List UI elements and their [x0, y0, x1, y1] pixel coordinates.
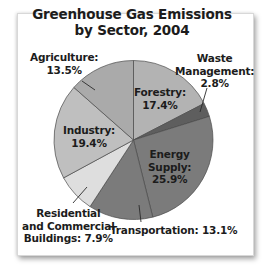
energy-label-line-2: Supply:	[148, 161, 191, 174]
forestry-label: Forestry: 17.4%	[134, 86, 186, 111]
transportation-label-text: Transportation: 13.1%	[110, 224, 237, 237]
energy-label-value: 25.9%	[148, 173, 191, 186]
waste-label-line-2: Management:	[175, 65, 254, 78]
energy-label: Energy Supply: 25.9%	[148, 148, 191, 186]
agriculture-label: Agriculture: 13.5%	[30, 51, 98, 76]
agriculture-label-name: Agriculture:	[30, 51, 98, 64]
transportation-label: Transportation: 13.1%	[110, 224, 237, 237]
energy-label-line-1: Energy	[148, 148, 191, 161]
waste-label: Waste Management: 2.8%	[175, 52, 254, 90]
residential-label-line-3: Buildings: 7.9%	[22, 232, 115, 245]
residential-label-line-1: Residential	[22, 207, 115, 220]
residential-label: Residential and Commercial Buildings: 7.…	[22, 207, 115, 245]
waste-label-line-1: Waste	[175, 52, 254, 65]
industry-label-value: 19.4%	[63, 137, 115, 150]
waste-label-value: 2.8%	[175, 77, 254, 90]
industry-label-name: Industry:	[63, 124, 115, 137]
agriculture-label-value: 13.5%	[30, 64, 98, 77]
forestry-label-value: 17.4%	[134, 99, 186, 112]
industry-label: Industry: 19.4%	[63, 124, 115, 149]
forestry-label-name: Forestry:	[134, 86, 186, 99]
residential-label-line-2: and Commercial	[22, 220, 115, 233]
